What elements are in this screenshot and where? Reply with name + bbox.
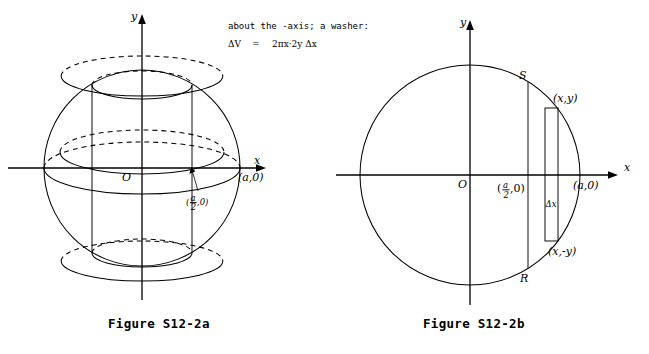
figure-a-y-axis-label: y: [130, 10, 138, 23]
figure-b-chord-top-label: S: [519, 69, 527, 82]
figure-b-origin-label: O: [458, 178, 467, 191]
annotation-note: about the -axis; a washer: ΔV = 2πx·2y Δ…: [228, 21, 369, 49]
note-line-1: about the -axis; a washer:: [228, 21, 369, 31]
figure-b-group: y x O S R (x,y) (x,-y) Δx (a,0) ( a 2 ,0…: [336, 16, 631, 331]
figure-a-half-a-leader: [192, 170, 198, 191]
figure-b-strip-bottom-point-label: (x,-y): [548, 245, 576, 258]
figure-b-point-a-label: (a,0): [573, 179, 599, 192]
note-formula-lhs: ΔV: [228, 39, 241, 49]
note-formula-rhs: 2πx·2y Δx: [272, 39, 317, 49]
figure-b-x-axis-arrowhead: [608, 171, 618, 179]
figure-b-point-half-a-label: ( a 2 ,0): [497, 180, 525, 200]
figure-b-half-a-numerator: a: [503, 180, 508, 190]
figure-b-chord-bottom-label: R: [519, 272, 528, 285]
figure-a-point-half-a-label: ( a 2 ,0): [186, 193, 208, 212]
figure-b-half-a-open-paren: (: [497, 182, 501, 195]
note-formula-equals: =: [252, 39, 260, 49]
figure-b-strip-top-point-label: (x,y): [553, 92, 578, 105]
figure-a-x-axis-label: x: [254, 154, 261, 167]
figure-b-x-axis-label: x: [624, 161, 631, 174]
figure-b-half-a-denominator: 2: [502, 190, 508, 200]
figure-a-half-a-denominator: 2: [190, 202, 196, 212]
figure-a-origin-label: O: [122, 171, 131, 184]
figure-a-half-a-open-paren: (: [186, 197, 190, 207]
figure-b-y-axis-arrowhead: [466, 20, 474, 30]
figure-a-y-axis-arrowhead: [138, 14, 146, 24]
figure-canvas: about the -axis; a washer: ΔV = 2πx·2y Δ…: [0, 0, 649, 354]
figure-b-y-axis-label: y: [459, 16, 467, 29]
figure-page: about the -axis; a washer: ΔV = 2πx·2y Δ…: [0, 0, 649, 354]
figure-a-group: y x O (a,0) ( a 2 ,0) Figure S12-2a: [8, 10, 266, 331]
figure-a-half-a-tail: ,0): [197, 197, 208, 207]
figure-b-half-a-tail: ,0): [510, 182, 525, 195]
figure-a-point-a-label: (a,0): [238, 171, 264, 184]
figure-a-caption: Figure S12-2a: [108, 316, 210, 331]
figure-b-strip-width-label: Δx: [545, 199, 557, 209]
figure-b-caption: Figure S12-2b: [423, 316, 525, 331]
